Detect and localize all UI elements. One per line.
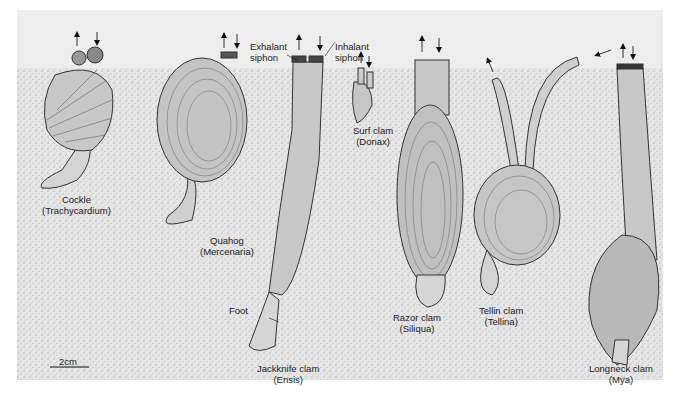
illustration	[17, 10, 663, 380]
species-label-quahog: Quahog(Mercenaria)	[200, 235, 254, 257]
diagram-panel: Exhalantsiphon Inhalantsiphon Foot 2cm C…	[17, 10, 663, 380]
exhalant-siphon-label: Exhalantsiphon	[250, 41, 287, 63]
sediment-layer	[17, 68, 663, 380]
species-label-cockle: Cockle(Trachycardium)	[42, 194, 111, 216]
foot-label: Foot	[229, 305, 248, 316]
species-label-tellin-clam: Tellin clam(Tellina)	[479, 305, 523, 327]
species-label-razor-clam: Razor clam(Siliqua)	[393, 312, 441, 334]
species-label-surf-clam: Surf clam(Donax)	[353, 125, 393, 147]
scale-bar-label: 2cm	[59, 356, 77, 367]
species-label-longneck-clam: Longneck clam(Mya)	[589, 363, 653, 385]
inhalant-siphon-label: Inhalantsiphon	[335, 41, 369, 63]
species-label-jackknife: Jackknife clam(Ensis)	[257, 363, 319, 385]
